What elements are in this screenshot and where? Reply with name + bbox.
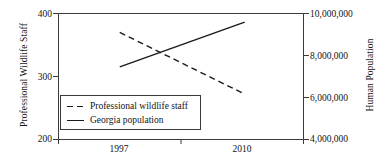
left-axis-ticks (53, 14, 59, 140)
plot-area (0, 0, 388, 160)
legend-solid-line-icon (66, 115, 88, 125)
legend-dashed-line-icon (66, 101, 88, 111)
series-line-georgia-population (120, 22, 245, 67)
chart-container: Professional Wildlife Staff Human Popula… (0, 0, 388, 160)
legend-item-professional-wildlife-staff: Professional wildlife staff (66, 99, 200, 113)
legend-label-professional-wildlife-staff: Professional wildlife staff (88, 101, 188, 111)
legend-item-georgia-population: Georgia population (66, 113, 200, 127)
chart-legend: Professional wildlife staff Georgia popu… (60, 95, 201, 130)
legend-label-georgia-population: Georgia population (88, 115, 163, 125)
x-axis-ticks (59, 140, 304, 145)
right-axis-ticks (304, 14, 310, 140)
series-line-professional-wildlife-staff (120, 32, 245, 94)
